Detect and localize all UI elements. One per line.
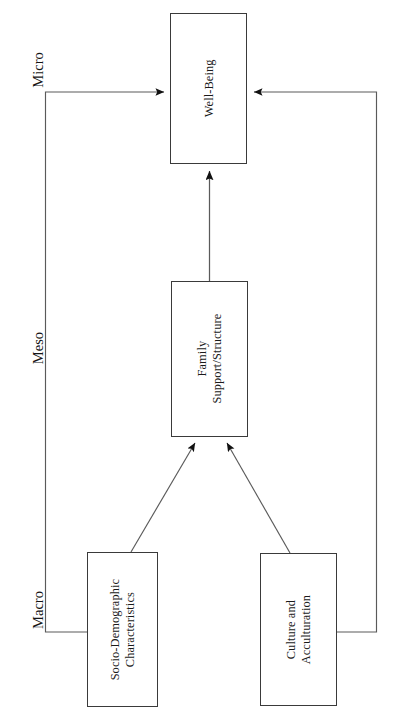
edge-culture-to-well-being (254, 92, 377, 632)
node-culture-and-acculturation[interactable]: Culture and Acculturation (260, 553, 337, 706)
node-well-being-label: Well-Being (201, 60, 216, 118)
diagram-canvas: Well-Being Family Support/Structure Soci… (0, 0, 393, 726)
node-culture-and-acculturation-label: Culture and Acculturation (284, 595, 313, 664)
level-label-macro: Macro (30, 575, 50, 645)
edge-socio-to-well-being (46, 92, 165, 632)
edge-culture-to-family (227, 443, 290, 553)
node-socio-demographic-characteristics[interactable]: Socio-Demographic Characteristics (87, 552, 158, 707)
level-label-micro: Micro (30, 35, 50, 105)
level-label-meso: Meso (30, 313, 50, 383)
edge-socio-to-family (131, 443, 195, 552)
node-socio-demographic-characteristics-label: Socio-Demographic Characteristics (108, 579, 137, 680)
node-family-support-structure[interactable]: Family Support/Structure (171, 281, 248, 437)
node-well-being[interactable]: Well-Being (170, 13, 247, 164)
node-family-support-structure-label: Family Support/Structure (195, 314, 224, 404)
